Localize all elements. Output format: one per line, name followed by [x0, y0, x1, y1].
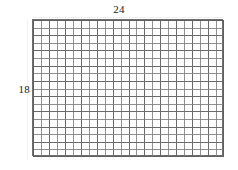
grid-rectangle: [32, 19, 223, 156]
grid-lines: [33, 20, 224, 157]
grid-border: [34, 21, 224, 157]
scan-artifact-haze: [33, 17, 223, 18]
dimension-label-width: 24: [0, 3, 238, 15]
figure-canvas: 24 18: [0, 0, 238, 170]
dimension-label-height: 18: [12, 83, 30, 95]
